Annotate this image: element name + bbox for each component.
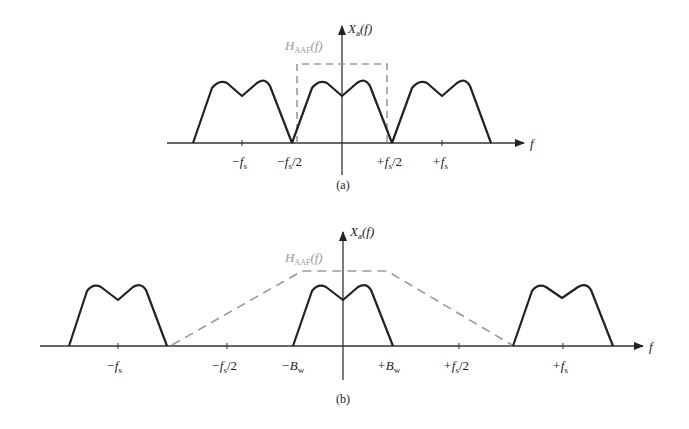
panel-b-y-axis-label: Xa(f) bbox=[349, 224, 374, 241]
panel-b-tick-neg-bw: −Bw bbox=[281, 358, 305, 375]
panel-b-x-axis-label: f bbox=[649, 339, 655, 354]
panel-a-tick-neg-fs: −fs bbox=[231, 154, 247, 171]
panel-b-caption: (b) bbox=[336, 392, 350, 406]
panel-b-filter-response bbox=[172, 271, 512, 345]
panel-b: Xa(f) HAAF(f) f −fs −fs/2 −Bw +Bw +fs/2 … bbox=[40, 224, 655, 406]
panel-a-y-axis-label: Xa(f) bbox=[347, 21, 372, 38]
panel-b-tick-pos-half-fs: +fs/2 bbox=[443, 358, 469, 375]
panel-b-spectra bbox=[69, 285, 613, 346]
panel-b-tick-pos-bw: +Bw bbox=[377, 358, 401, 375]
panel-a: Xa(f) HAAF(f) f −fs −fs/2 +fs/2 +fs (a) bbox=[167, 21, 536, 192]
panel-b-filter-label: HAAF(f) bbox=[284, 250, 323, 267]
panel-a-tick-pos-half-fs: +fs/2 bbox=[376, 154, 402, 171]
panel-a-caption: (a) bbox=[336, 178, 349, 192]
panel-b-tick-pos-fs: +fs bbox=[552, 358, 568, 375]
panel-a-x-axis-label: f bbox=[530, 136, 536, 151]
panel-b-tick-neg-fs: −fs bbox=[106, 358, 122, 375]
spectrum-diagram: Xa(f) HAAF(f) f −fs −fs/2 +fs/2 +fs (a) … bbox=[0, 0, 689, 429]
panel-a-tick-pos-fs: +fs bbox=[432, 154, 448, 171]
panel-b-tick-neg-half-fs: −fs/2 bbox=[211, 358, 237, 375]
panel-a-tick-neg-half-fs: −fs/2 bbox=[276, 154, 302, 171]
panel-a-filter-label: HAAF(f) bbox=[284, 38, 323, 55]
